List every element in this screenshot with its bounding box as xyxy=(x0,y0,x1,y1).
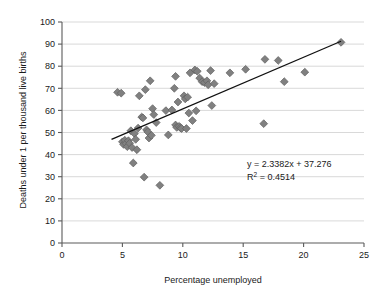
data-point xyxy=(132,135,140,143)
y-tick-label: 90 xyxy=(45,39,55,49)
y-tick-labels: 0102030405060708090100 xyxy=(40,17,55,248)
x-tick-label: 10 xyxy=(178,250,188,260)
x-tick-label: 15 xyxy=(238,250,248,260)
x-tick-label: 5 xyxy=(120,250,125,260)
data-point xyxy=(274,57,282,65)
r-squared-label: R2 = 0.4514 xyxy=(247,171,295,182)
x-axis-title: Percentage unemployed xyxy=(164,275,262,285)
data-point xyxy=(261,55,269,63)
data-point xyxy=(242,65,250,73)
y-tick-label: 40 xyxy=(45,150,55,160)
y-tick-label: 50 xyxy=(45,128,55,138)
x-tick-label: 20 xyxy=(299,250,309,260)
data-point xyxy=(210,80,218,88)
y-tick-label: 0 xyxy=(50,238,55,248)
y-tick-label: 70 xyxy=(45,84,55,94)
data-point xyxy=(226,69,234,77)
r-squared-value: = 0.4514 xyxy=(257,172,295,182)
x-tick-label: 0 xyxy=(59,250,64,260)
tick-marks xyxy=(58,22,364,247)
data-point xyxy=(301,68,309,76)
data-point xyxy=(146,77,154,85)
data-point xyxy=(150,111,158,119)
y-tick-label: 30 xyxy=(45,172,55,182)
data-point xyxy=(170,84,178,92)
data-point xyxy=(260,120,268,128)
data-point xyxy=(174,98,182,106)
gridlines xyxy=(62,22,364,221)
x-tick-labels: 0510152025 xyxy=(59,250,369,260)
y-axis-title: Deaths under 1 per thousand live births xyxy=(18,51,28,209)
data-point xyxy=(140,173,148,181)
y-tick-label: 80 xyxy=(45,61,55,71)
data-point xyxy=(208,102,216,110)
data-point xyxy=(129,159,137,167)
data-point xyxy=(207,67,215,75)
data-point xyxy=(135,92,143,100)
x-tick-label: 25 xyxy=(359,250,369,260)
y-tick-label: 10 xyxy=(45,216,55,226)
data-point xyxy=(149,105,157,113)
data-point xyxy=(189,117,197,125)
data-point xyxy=(156,181,164,189)
y-tick-label: 20 xyxy=(45,194,55,204)
data-point xyxy=(192,107,200,115)
data-point xyxy=(183,125,191,133)
y-tick-label: 100 xyxy=(40,17,55,27)
data-point xyxy=(280,78,288,86)
chart-canvas: 0102030405060708090100 0510152025 Deaths… xyxy=(0,0,386,295)
data-point xyxy=(172,72,180,80)
scatter-chart: 0102030405060708090100 0510152025 Deaths… xyxy=(0,0,386,295)
data-point xyxy=(141,86,149,94)
regression-equation-label: y = 2.3382x + 37.276 xyxy=(247,159,332,169)
y-tick-label: 60 xyxy=(45,106,55,116)
